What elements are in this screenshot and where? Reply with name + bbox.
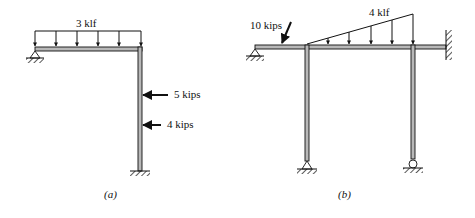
beam-a — [35, 47, 142, 51]
point-load-4-label: 4 kips — [167, 119, 194, 130]
inclined-load-label: 10 kips — [250, 20, 282, 31]
triangular-load-label: 4 klf — [369, 7, 389, 18]
pin-support-b-column — [297, 161, 317, 174]
column-b-right — [411, 45, 415, 159]
caption-a: (a) — [104, 189, 117, 200]
roller-support-b-column — [403, 160, 423, 173]
pin-support-a — [26, 51, 44, 63]
fixed-wall-b — [446, 30, 452, 60]
triangular-load-b — [307, 14, 413, 44]
pin-support-b — [246, 49, 264, 61]
beam-b — [255, 45, 446, 49]
inclined-load-arrow — [282, 22, 291, 43]
caption-b: (b) — [338, 189, 351, 200]
fixed-support-a — [130, 171, 150, 176]
distributed-load-a — [35, 31, 141, 46]
distributed-load-a-label: 3 klf — [76, 18, 96, 29]
column-b-left — [305, 45, 309, 161]
frame-b — [246, 14, 452, 174]
structure-diagram — [0, 0, 475, 218]
column-a — [138, 47, 142, 171]
point-load-5-label: 5 kips — [174, 89, 201, 100]
frame-a — [26, 31, 168, 176]
